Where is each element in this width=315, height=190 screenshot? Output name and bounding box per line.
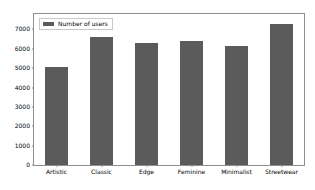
y-tick-label: 6000 [15, 46, 30, 52]
x-tick-mark [146, 165, 147, 167]
bar-chart-figure: Number of users 010002000300040005000600… [0, 0, 315, 190]
y-tick-mark [32, 29, 34, 30]
bar-minimalist [225, 46, 248, 165]
x-tick-label-streetwear: Streetwear [265, 169, 298, 175]
y-tick-mark [32, 68, 34, 69]
bar-classic [90, 37, 113, 165]
chart-legend: Number of users [39, 18, 113, 30]
bar-feminine [180, 41, 203, 165]
legend-swatch-number-of-users [43, 22, 54, 26]
x-tick-label-edge: Edge [139, 169, 154, 175]
y-tick-label: 3000 [15, 104, 30, 110]
x-tick-label-classic: Classic [91, 169, 112, 175]
y-tick-label: 1000 [15, 143, 30, 149]
y-tick-mark [32, 48, 34, 49]
legend-label-number-of-users: Number of users [58, 21, 108, 27]
y-tick-label: 7000 [15, 26, 30, 32]
bar-edge [135, 43, 158, 165]
y-tick-mark [32, 126, 34, 127]
y-tick-mark [32, 145, 34, 146]
x-tick-mark [56, 165, 57, 167]
y-tick-mark [32, 165, 34, 166]
x-tick-label-artistic: Artistic [46, 169, 67, 175]
y-tick-mark [32, 87, 34, 88]
x-tick-label-feminine: Feminine [178, 169, 205, 175]
bar-artistic [45, 67, 68, 165]
x-tick-mark [236, 165, 237, 167]
y-tick-label: 4000 [15, 85, 30, 91]
y-tick-mark [32, 106, 34, 107]
plot-area [34, 14, 304, 165]
plot-axes: Number of users 010002000300040005000600… [33, 13, 305, 166]
x-tick-mark [101, 165, 102, 167]
x-tick-mark [281, 165, 282, 167]
y-tick-label: 2000 [15, 123, 30, 129]
bar-streetwear [270, 24, 293, 165]
x-tick-mark [191, 165, 192, 167]
y-tick-label: 0 [26, 162, 30, 168]
x-tick-label-minimalist: Minimalist [221, 169, 252, 175]
y-tick-label: 5000 [15, 65, 30, 71]
